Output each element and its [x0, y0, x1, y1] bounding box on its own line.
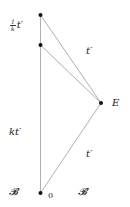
point-mid [39, 43, 43, 47]
label-upper-edge: t′ [86, 46, 92, 56]
label-lower-edge: t′ [86, 149, 92, 159]
label-top-time: 1 k t′ [10, 19, 23, 32]
label-left-mid: kt′ [9, 127, 21, 137]
label-origin: 0 [48, 192, 53, 200]
label-top-var: t′ [17, 19, 23, 30]
label-event-E: E [112, 98, 119, 108]
fraction-denominator: k [10, 26, 16, 32]
point-origin [39, 191, 43, 195]
point-top [39, 13, 43, 17]
fraction-1-over-k: 1 k [10, 19, 16, 32]
point-E [99, 101, 103, 105]
label-frame-B-prime: 𝓑′ [78, 187, 89, 197]
label-frame-B: 𝓑 [9, 187, 18, 197]
light-ray-top-to-E [41, 15, 102, 103]
